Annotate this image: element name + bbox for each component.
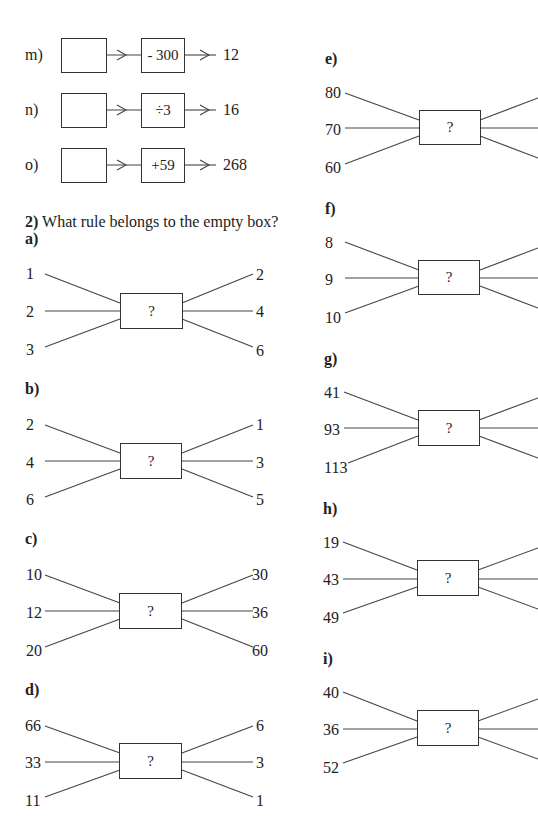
output-value: 16 [223, 102, 239, 118]
output-value: 12 [223, 47, 239, 63]
input-value: 93 [324, 422, 340, 438]
input-value: 10 [26, 567, 42, 583]
operation-box: - 300 [141, 38, 185, 73]
input-value: 49 [323, 610, 339, 626]
input-value: 6 [26, 492, 34, 508]
rule-box[interactable]: ? [417, 560, 479, 596]
input-value: 10 [325, 310, 341, 326]
answer-box[interactable] [61, 38, 107, 73]
output-value: 6 [256, 718, 264, 734]
diagram-label: a) [25, 231, 38, 247]
output-value: 1 [256, 417, 264, 433]
rule-box[interactable]: ? [417, 710, 479, 746]
input-value: 3 [26, 342, 34, 358]
answer-box[interactable] [61, 93, 107, 128]
input-value: 20 [26, 643, 42, 659]
diagram-label: f) [325, 201, 336, 217]
diagram-label: b) [25, 381, 39, 397]
output-value: 4 [256, 304, 264, 320]
input-value: 43 [323, 572, 339, 588]
input-value: 70 [325, 122, 341, 138]
input-value: 40 [323, 685, 339, 701]
rule-box[interactable]: ? [418, 260, 480, 295]
item-label: n) [25, 102, 38, 118]
rule-box[interactable]: ? [120, 293, 183, 329]
output-value: 2 [256, 267, 264, 283]
input-value: 60 [325, 160, 341, 176]
rule-box[interactable]: ? [119, 593, 182, 629]
output-value: 3 [256, 755, 264, 771]
input-value: 36 [323, 722, 339, 738]
input-value: 12 [26, 605, 42, 621]
question-text: What rule belongs to the empty box? [42, 213, 278, 230]
input-value: 2 [26, 304, 34, 320]
rule-box[interactable]: ? [418, 410, 480, 446]
diagram-label: g) [324, 351, 337, 367]
input-value: 19 [323, 535, 339, 551]
input-value: 41 [324, 385, 340, 401]
input-value: 33 [25, 755, 41, 771]
diagram-label: c) [25, 531, 37, 547]
output-value: 60 [252, 643, 268, 659]
input-value: 8 [325, 235, 333, 251]
input-value: 11 [25, 793, 40, 809]
input-value: 2 [26, 417, 34, 433]
output-value: 5 [256, 492, 264, 508]
section-number: 2) [25, 213, 38, 230]
section-2-heading: 2) What rule belongs to the empty box? [25, 213, 278, 231]
input-value: 113 [324, 460, 347, 476]
diagram-label: d) [25, 682, 39, 698]
operation-box: +59 [141, 148, 185, 183]
item-label: m) [25, 47, 43, 63]
output-value: 6 [256, 343, 264, 359]
output-value: 36 [252, 605, 268, 621]
rule-box[interactable]: ? [119, 743, 182, 779]
input-value: 9 [325, 272, 333, 288]
input-value: 80 [325, 85, 341, 101]
diagram-label: h) [323, 501, 337, 517]
item-label: o) [25, 157, 38, 173]
output-value: 1 [256, 793, 264, 809]
diagram-label: i) [323, 651, 333, 667]
input-value: 66 [25, 718, 41, 734]
input-value: 52 [323, 760, 339, 776]
output-value: 268 [223, 157, 247, 173]
answer-box[interactable] [61, 148, 107, 183]
input-value: 4 [26, 455, 34, 471]
rule-box[interactable]: ? [419, 110, 481, 145]
input-value: 1 [26, 266, 34, 282]
output-value: 3 [256, 455, 264, 471]
diagram-label: e) [325, 51, 337, 67]
rule-box[interactable]: ? [120, 443, 182, 479]
operation-box: ÷3 [141, 93, 185, 128]
output-value: 30 [252, 567, 268, 583]
